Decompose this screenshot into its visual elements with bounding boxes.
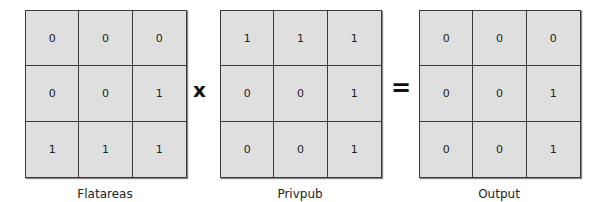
matrix-cell: 1 xyxy=(328,122,381,177)
matrix-cell: 1 xyxy=(527,122,580,177)
matrix-cell: 1 xyxy=(328,66,381,121)
matrix-privpub: 1 1 1 0 0 1 0 0 1 xyxy=(220,10,382,178)
matrix-cell: 1 xyxy=(133,122,186,177)
matrix-cell: 0 xyxy=(420,11,473,66)
matrix-cell: 0 xyxy=(221,122,274,177)
multiply-operator: x xyxy=(193,78,206,102)
matrix-label-flatareas: Flatareas xyxy=(25,187,185,201)
equals-operator: = xyxy=(391,74,411,102)
matrix-cell: 1 xyxy=(79,122,132,177)
matrix-cell: 0 xyxy=(527,11,580,66)
matrix-cell: 0 xyxy=(473,11,526,66)
matrix-cell: 0 xyxy=(274,122,327,177)
matrix-label-output: Output xyxy=(419,187,579,201)
matrix-cell: 0 xyxy=(26,11,79,66)
matrix-output: 0 0 0 0 0 1 0 0 1 xyxy=(419,10,581,178)
matrix-cell: 0 xyxy=(133,11,186,66)
matrix-cell: 1 xyxy=(527,66,580,121)
matrix-flatareas: 0 0 0 0 0 1 1 1 1 xyxy=(25,10,187,178)
matrix-cell: 0 xyxy=(473,122,526,177)
matrix-cell: 0 xyxy=(221,66,274,121)
matrix-cell: 1 xyxy=(133,66,186,121)
matrix-cell: 0 xyxy=(420,122,473,177)
matrix-cell: 0 xyxy=(473,66,526,121)
matrix-cell: 0 xyxy=(79,66,132,121)
matrix-label-privpub: Privpub xyxy=(220,187,380,201)
matrix-cell: 0 xyxy=(420,66,473,121)
matrix-cell: 1 xyxy=(328,11,381,66)
matrix-cell: 0 xyxy=(79,11,132,66)
matrix-cell: 1 xyxy=(26,122,79,177)
matrix-cell: 0 xyxy=(274,66,327,121)
matrix-cell: 1 xyxy=(221,11,274,66)
matrix-cell: 1 xyxy=(274,11,327,66)
matrix-cell: 0 xyxy=(26,66,79,121)
